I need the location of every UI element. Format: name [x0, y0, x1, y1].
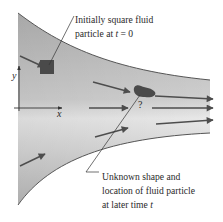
annotation-later: Unknown shape and location of fluid part… — [102, 171, 195, 210]
annotation-initial-line1: Initially square fluid — [75, 14, 154, 25]
question-mark: ? — [138, 99, 143, 110]
annotation-later-time-var: t — [150, 199, 153, 210]
annotation-later-line3-prefix: at later time — [102, 199, 150, 210]
svg-text:location of fluid particle: location of fluid particle — [102, 185, 195, 196]
svg-text:particle at t = 0: particle at t = 0 — [75, 28, 133, 39]
initial-square-particle — [40, 60, 54, 74]
fluid-particle-diagram: y x ? Initially square fluid particle at… — [0, 0, 223, 222]
annotation-later-line1: Unknown shape and — [102, 171, 181, 182]
annotation-initial: Initially square fluid particle at t = 0 — [75, 14, 154, 39]
annotation-initial-line2-prefix: particle at — [75, 28, 115, 39]
svg-text:at later time t: at later time t — [102, 199, 153, 210]
svg-text:Unknown shape and: Unknown shape and — [102, 171, 181, 182]
y-axis-label: y — [11, 70, 17, 81]
x-axis-label: x — [56, 108, 62, 119]
annotation-initial-line2-suffix: = 0 — [118, 28, 133, 39]
svg-text:Initially square fluid: Initially square fluid — [75, 14, 154, 25]
annotation-later-line2: location of fluid particle — [102, 185, 195, 196]
